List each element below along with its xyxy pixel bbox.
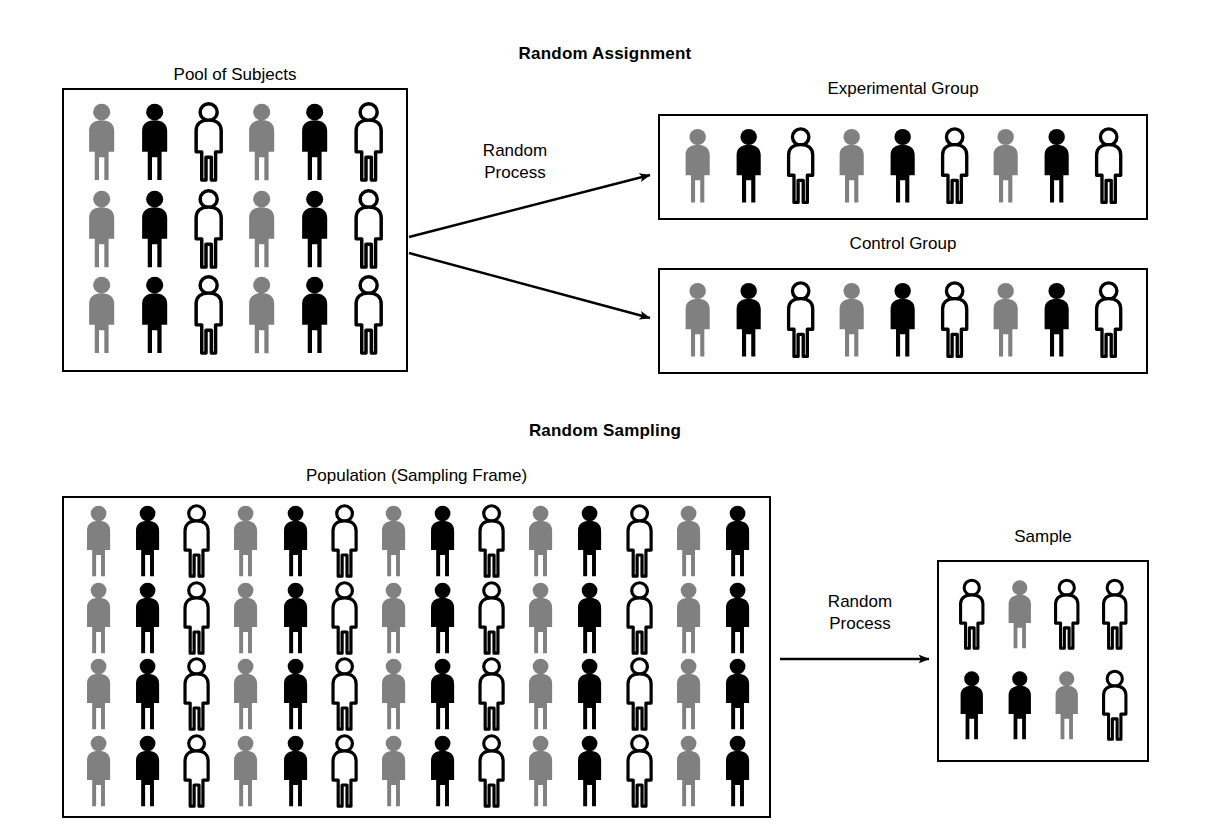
person-icon <box>1043 570 1091 661</box>
person-icon <box>516 581 565 658</box>
person-icon <box>664 734 713 811</box>
person-icon <box>1083 278 1134 364</box>
person-icon <box>1031 124 1082 210</box>
assignment-random-process-line2: Process <box>455 162 575 184</box>
person-icon <box>235 187 288 274</box>
person-icon <box>271 504 320 581</box>
person-icon <box>418 504 467 581</box>
person-icon <box>723 278 774 364</box>
person-icon <box>996 661 1044 752</box>
experimental-group-figures <box>672 124 1134 210</box>
person-icon <box>172 581 221 658</box>
person-icon <box>235 100 288 187</box>
assignment-random-process-line1: Random <box>455 140 575 162</box>
control-group-label: Control Group <box>658 234 1148 254</box>
population-label: Population (Sampling Frame) <box>62 466 771 486</box>
person-icon <box>1091 570 1139 661</box>
person-icon <box>664 657 713 734</box>
person-icon <box>467 657 516 734</box>
person-icon <box>271 734 320 811</box>
person-icon <box>342 273 395 360</box>
person-icon <box>948 570 996 661</box>
person-icon <box>948 661 996 752</box>
person-icon <box>565 657 614 734</box>
person-icon <box>775 124 826 210</box>
person-icon <box>128 100 181 187</box>
person-icon <box>288 273 341 360</box>
person-icon <box>271 657 320 734</box>
person-icon <box>369 657 418 734</box>
person-icon <box>123 581 172 658</box>
person-icon <box>877 124 928 210</box>
person-icon <box>713 657 762 734</box>
person-icon <box>123 504 172 581</box>
person-icon <box>929 278 980 364</box>
arrow-pool-to-control <box>409 253 650 318</box>
person-icon <box>826 278 877 364</box>
pool-of-subjects-figures <box>75 100 395 360</box>
person-icon <box>1083 124 1134 210</box>
person-icon <box>565 581 614 658</box>
person-icon <box>723 124 774 210</box>
person-icon <box>516 504 565 581</box>
person-icon <box>128 187 181 274</box>
person-icon <box>672 124 723 210</box>
person-icon <box>182 100 235 187</box>
person-icon <box>713 734 762 811</box>
person-icon <box>172 504 221 581</box>
person-icon <box>320 581 369 658</box>
person-icon <box>74 657 123 734</box>
person-icon <box>565 504 614 581</box>
person-icon <box>980 124 1031 210</box>
person-icon <box>320 657 369 734</box>
person-icon <box>516 734 565 811</box>
person-icon <box>1031 278 1082 364</box>
person-icon <box>713 581 762 658</box>
person-icon <box>221 657 270 734</box>
person-icon <box>516 657 565 734</box>
person-icon <box>996 570 1044 661</box>
person-icon <box>664 581 713 658</box>
person-icon <box>826 124 877 210</box>
person-icon <box>288 100 341 187</box>
person-icon <box>369 581 418 658</box>
person-icon <box>221 734 270 811</box>
person-icon <box>182 273 235 360</box>
section-title-random-assignment: Random Assignment <box>0 44 1210 64</box>
person-icon <box>288 187 341 274</box>
person-icon <box>271 581 320 658</box>
person-icon <box>75 273 128 360</box>
person-icon <box>75 187 128 274</box>
person-icon <box>320 734 369 811</box>
person-icon <box>615 657 664 734</box>
population-figures <box>74 504 762 810</box>
person-icon <box>877 278 928 364</box>
person-icon <box>929 124 980 210</box>
sampling-random-process-line2: Process <box>800 613 920 635</box>
experimental-group-label: Experimental Group <box>658 79 1148 99</box>
sample-label: Sample <box>937 527 1149 547</box>
section-title-random-sampling: Random Sampling <box>0 421 1210 441</box>
person-icon <box>221 504 270 581</box>
sampling-random-process-label: Random Process <box>800 591 920 635</box>
person-icon <box>123 657 172 734</box>
sampling-random-process-line1: Random <box>800 591 920 613</box>
person-icon <box>342 100 395 187</box>
person-icon <box>615 734 664 811</box>
person-icon <box>221 581 270 658</box>
person-icon <box>467 581 516 658</box>
person-icon <box>467 504 516 581</box>
person-icon <box>980 278 1031 364</box>
person-icon <box>1043 661 1091 752</box>
person-icon <box>172 734 221 811</box>
person-icon <box>235 273 288 360</box>
diagram-canvas: Random Assignment Pool of Subjects Rando… <box>0 0 1210 835</box>
person-icon <box>123 734 172 811</box>
person-icon <box>369 504 418 581</box>
person-icon <box>74 581 123 658</box>
person-icon <box>342 187 395 274</box>
person-icon <box>615 581 664 658</box>
pool-of-subjects-label: Pool of Subjects <box>62 65 408 85</box>
person-icon <box>320 504 369 581</box>
person-icon <box>664 504 713 581</box>
